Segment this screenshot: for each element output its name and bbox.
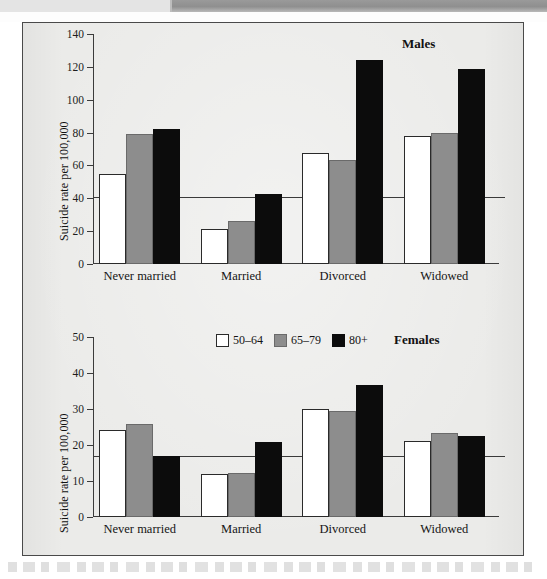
bar xyxy=(153,456,180,517)
bar xyxy=(356,60,383,264)
y-tick-label: 140 xyxy=(67,28,84,40)
bar-group: Never married xyxy=(99,337,180,517)
bar xyxy=(431,133,458,264)
y-tick-mark xyxy=(87,481,93,482)
bar xyxy=(201,474,228,517)
bar xyxy=(228,473,255,517)
bar-group: Divorced xyxy=(302,34,383,264)
bar xyxy=(329,411,356,517)
y-tick-label: 30 xyxy=(73,403,85,415)
y-tick-mark xyxy=(87,373,93,374)
bar xyxy=(404,441,431,517)
y-axis-females xyxy=(93,337,94,517)
bar xyxy=(255,194,282,264)
y-tick-mark xyxy=(87,165,93,166)
scan-band-right xyxy=(172,0,547,12)
bar xyxy=(255,442,282,517)
y-tick-label: 80 xyxy=(73,127,85,139)
y-tick-label: 40 xyxy=(73,192,85,204)
bar-group: Never married xyxy=(99,34,180,264)
y-tick-label: 100 xyxy=(67,94,84,106)
y-tick-mark xyxy=(87,409,93,410)
bar-group: Widowed xyxy=(404,337,485,517)
bar xyxy=(431,433,458,517)
bar xyxy=(458,69,485,265)
y-tick-mark xyxy=(87,231,93,232)
page-margin-top xyxy=(0,12,547,22)
bar xyxy=(153,129,180,264)
y-tick-label: 60 xyxy=(73,159,85,171)
y-tick-label: 120 xyxy=(67,61,84,73)
bar-group: Married xyxy=(201,337,282,517)
bar xyxy=(228,221,255,264)
y-axis-title-females: Suicide rate per 100,000 xyxy=(57,413,72,533)
chart-panel-males: Suicide rate per 100,000 Males 020406080… xyxy=(23,23,525,295)
bar xyxy=(302,153,329,264)
y-tick-mark xyxy=(87,445,93,446)
y-tick-label: 50 xyxy=(73,331,85,343)
y-tick-label: 10 xyxy=(73,475,85,487)
y-tick-mark xyxy=(87,133,93,134)
bar xyxy=(99,174,126,264)
y-tick-mark xyxy=(87,198,93,199)
bar-group: Divorced xyxy=(302,337,383,517)
y-tick-label: 20 xyxy=(73,439,85,451)
bar xyxy=(126,424,153,517)
y-tick-mark xyxy=(87,67,93,68)
y-tick-mark xyxy=(87,264,93,265)
scan-band-left xyxy=(0,0,170,12)
y-axis-males xyxy=(93,34,94,264)
y-tick-label: 20 xyxy=(73,225,85,237)
y-tick-label: 40 xyxy=(73,367,85,379)
bar xyxy=(458,436,485,517)
bar xyxy=(126,134,153,264)
x-category-label: Widowed xyxy=(364,522,524,537)
page-caption-remnant xyxy=(8,562,539,572)
y-tick-mark xyxy=(87,100,93,101)
y-tick-mark xyxy=(87,337,93,338)
bar xyxy=(329,160,356,264)
bar xyxy=(201,229,228,264)
figure-frame: Suicide rate per 100,000 Males 020406080… xyxy=(22,22,524,556)
bar-group: Married xyxy=(201,34,282,264)
y-tick-mark xyxy=(87,34,93,35)
bar xyxy=(302,409,329,517)
bar xyxy=(356,385,383,517)
bar-group: Widowed xyxy=(404,34,485,264)
bar xyxy=(99,430,126,517)
y-axis-title-males: Suicide rate per 100,000 xyxy=(57,121,72,241)
plot-area-males: 020406080100120140 Never marriedMarriedD… xyxy=(93,34,499,264)
y-tick-mark xyxy=(87,517,93,518)
bar xyxy=(404,136,431,264)
x-category-label: Widowed xyxy=(364,269,524,284)
chart-panel-females: 50–6465–7980+ Suicide rate per 100,000 F… xyxy=(23,295,525,555)
plot-area-females: 01020304050 Never marriedMarriedDivorced… xyxy=(93,337,499,517)
